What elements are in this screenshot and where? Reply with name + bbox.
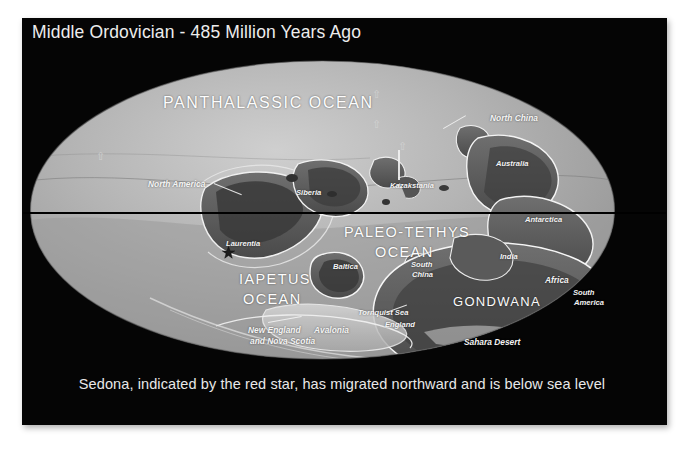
ocean-arrow-icon: ⇧ xyxy=(96,150,105,163)
island-arc xyxy=(439,185,449,191)
slide-caption: Sedona, indicated by the red star, has m… xyxy=(0,376,684,392)
slide-title: Middle Ordovician - 485 Million Years Ag… xyxy=(32,22,361,43)
paleogeographic-map xyxy=(30,60,615,360)
island-arc xyxy=(327,191,337,197)
island-arc xyxy=(286,174,298,182)
leader-line-kazakstania xyxy=(398,150,400,180)
equator-line xyxy=(23,212,666,214)
globe-ellipse xyxy=(30,60,615,360)
ocean-arrow-icon: ⇧ xyxy=(372,118,381,131)
sedona-star-marker-icon xyxy=(222,246,235,259)
ocean-arrow-icon: ⇧ xyxy=(372,88,381,101)
island-arc xyxy=(382,199,390,205)
slide-image: ⇧ ⇧ ⇧ ⇧ PANTHALASSIC OCEAN PALEO-TETHYS … xyxy=(0,0,684,449)
